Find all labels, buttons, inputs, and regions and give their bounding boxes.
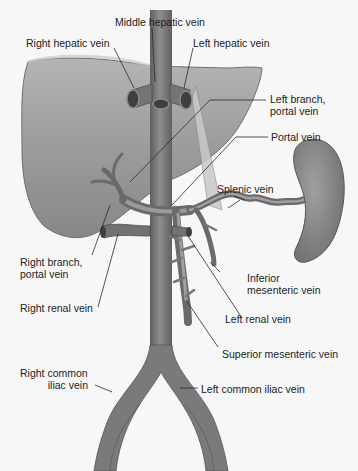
portal-system-diagram: Middle hepatic vein Right hepatic vein L…: [0, 0, 358, 471]
label-line-2: portal vein: [20, 268, 82, 280]
label-inferior-mesenteric-vein: Inferior mesenteric vein: [247, 272, 321, 296]
label-right-renal-vein: Right renal vein: [20, 302, 93, 314]
label-right-hepatic-vein: Right hepatic vein: [26, 37, 109, 49]
label-line-1: Left branch,: [270, 93, 325, 105]
anatomy-illustration: [0, 0, 358, 471]
label-splenic-vein: Splenic vein: [217, 183, 274, 195]
label-middle-hepatic-vein: Middle hepatic vein: [115, 16, 205, 28]
label-left-common-iliac-vein: Left common iliac vein: [201, 383, 305, 395]
label-right-branch-portal-vein: Right branch, portal vein: [20, 256, 82, 280]
label-line-2: iliac vein: [20, 379, 88, 391]
label-line-1: Right common: [20, 367, 88, 379]
label-right-common-iliac-vein: Right common iliac vein: [20, 367, 88, 391]
label-line-2: mesenteric vein: [247, 284, 321, 296]
label-portal-vein: Portal vein: [271, 131, 321, 143]
label-line-1: Inferior: [247, 272, 321, 284]
label-line-1: Right branch,: [20, 256, 82, 268]
label-superior-mesenteric-vein: Superior mesenteric vein: [222, 348, 338, 360]
label-left-hepatic-vein: Left hepatic vein: [193, 37, 269, 49]
label-line-2: portal vein: [270, 105, 325, 117]
label-left-branch-portal-vein: Left branch, portal vein: [270, 93, 325, 117]
label-left-renal-vein: Left renal vein: [225, 313, 291, 325]
